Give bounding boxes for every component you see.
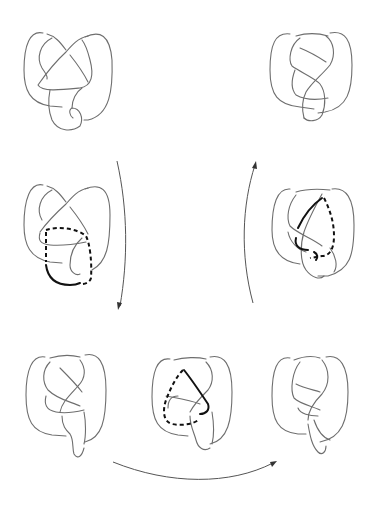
arrow-up-right bbox=[244, 161, 257, 303]
arrowhead-icon bbox=[117, 302, 122, 310]
arrow-down-left bbox=[117, 161, 126, 310]
knot-middle-left bbox=[24, 185, 110, 285]
knot-bottom-center bbox=[152, 356, 232, 449]
arrow-bottom-right bbox=[113, 461, 277, 479]
knot-bottom-left bbox=[26, 354, 106, 456]
arrowhead-icon bbox=[270, 461, 277, 467]
knot-top-left bbox=[24, 33, 112, 130]
knot-middle-right bbox=[272, 189, 354, 278]
knot-top-right bbox=[270, 32, 352, 120]
knot-sequence-figure bbox=[0, 0, 379, 508]
knot-bottom-right bbox=[272, 357, 348, 454]
arrowhead-icon bbox=[252, 161, 257, 169]
